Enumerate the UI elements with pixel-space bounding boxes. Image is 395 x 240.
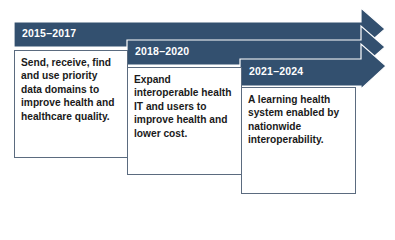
phase-1-description: Send, receive, find and use priority dat…	[21, 57, 114, 122]
phase-1-description-box: Send, receive, find and use priority dat…	[14, 50, 128, 158]
phase-3-description: A learning health system enabled by nati…	[248, 94, 339, 145]
phase-1-period: 2015–2017	[22, 27, 76, 39]
phase-3-period: 2021–2024	[249, 65, 303, 77]
phase-2-description: Expand interoperable health IT and users…	[134, 74, 231, 139]
phase-2-description-box: Expand interoperable health IT and users…	[127, 67, 242, 175]
phase-2-period: 2018–2020	[135, 45, 189, 57]
phase-3-description-box: A learning health system enabled by nati…	[241, 87, 356, 194]
